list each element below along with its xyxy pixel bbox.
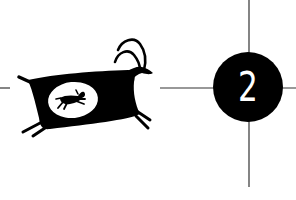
goat-back-leg-2 (33, 126, 48, 136)
illustration-canvas (0, 0, 296, 200)
number-badge-circle (213, 52, 283, 122)
small-animal-tail (56, 98, 61, 99)
goat-tail (19, 77, 30, 82)
goat-horn-outer (118, 40, 145, 70)
